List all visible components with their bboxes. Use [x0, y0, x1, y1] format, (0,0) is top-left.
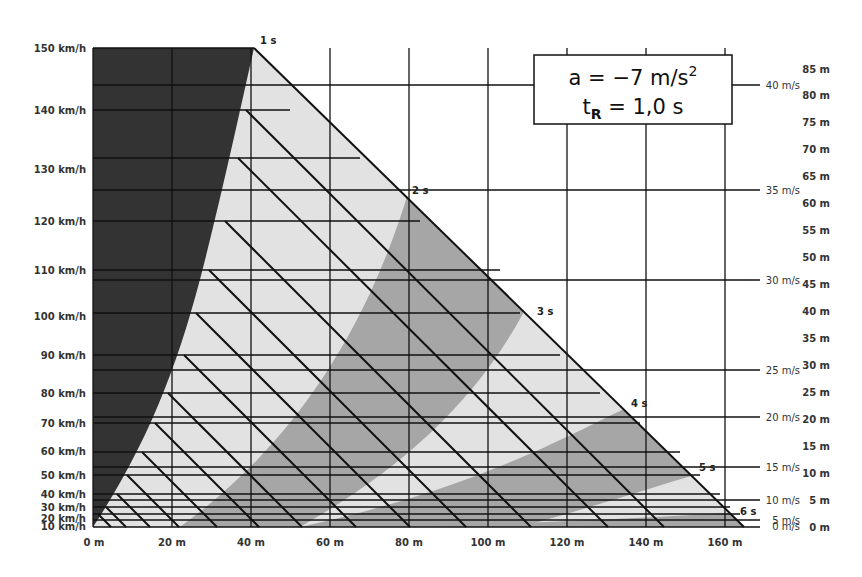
y-tick-150: 150 km/h	[34, 43, 86, 54]
y-tick-80: 80 km/h	[41, 388, 86, 399]
y-tick-50: 50 km/h	[41, 470, 86, 481]
x-tick-120: 120 m	[550, 537, 585, 548]
x-tick-80: 80 m	[395, 537, 423, 548]
dist-tick-50: 50 m	[802, 252, 830, 263]
dist-tick-55: 55 m	[802, 225, 830, 236]
speed-tick-30: 30 m/s	[766, 275, 800, 286]
x-tick-20: 20 m	[158, 537, 186, 548]
speed-tick-10: 10 m/s	[766, 495, 800, 506]
right-speed-labels: 40 m/s 35 m/s 30 m/s 25 m/s 20 m/s 15 m/…	[766, 80, 800, 532]
dist-tick-70: 70 m	[802, 144, 830, 155]
dist-tick-45: 45 m	[802, 279, 830, 290]
y-tick-120: 120 km/h	[34, 216, 86, 227]
dist-tick-35: 35 m	[802, 333, 830, 344]
time-label-5s: 5 s	[699, 462, 715, 473]
y-tick-110: 110 km/h	[34, 265, 86, 276]
deceleration-label: a = −7 m/s2	[569, 63, 698, 90]
y-tick-70: 70 km/h	[41, 418, 86, 429]
time-label-4s: 4 s	[631, 398, 647, 409]
y-tick-40: 40 km/h	[41, 489, 86, 500]
dist-tick-60: 60 m	[802, 198, 830, 209]
x-tick-160: 160 m	[708, 537, 743, 548]
x-tick-0: 0 m	[84, 537, 105, 548]
x-tick-60: 60 m	[316, 537, 344, 548]
time-label-6s: 6 s	[740, 506, 756, 517]
speed-tick-20: 20 m/s	[766, 412, 800, 423]
speed-tick-15: 15 m/s	[766, 462, 800, 473]
x-tick-100: 100 m	[471, 537, 506, 548]
dist-tick-25: 25 m	[802, 387, 830, 398]
y-tick-130: 130 km/h	[34, 164, 86, 175]
speed-tick-40: 40 m/s	[766, 80, 800, 91]
time-label-1s: 1 s	[260, 35, 276, 46]
dist-tick-75: 75 m	[802, 117, 830, 128]
dist-tick-80: 80 m	[802, 90, 830, 101]
y-tick-90: 90 km/h	[41, 350, 86, 361]
dist-tick-85: 85 m	[802, 64, 830, 75]
parameter-box: a = −7 m/s2 tR = 1,0 s	[534, 55, 732, 124]
y-tick-30: 30 km/h	[41, 502, 86, 513]
dist-tick-5: 5 m	[809, 495, 830, 506]
speed-tick-35: 35 m/s	[766, 185, 800, 196]
braking-distance-chart: 1 s 2 s 3 s 4 s 5 s 6 s a = −7 m/s2 tR =…	[0, 0, 862, 577]
right-distance-labels: 85 m 80 m 75 m 70 m 65 m 60 m 55 m 50 m …	[802, 64, 830, 533]
y-tick-10: 10 km/h	[41, 521, 86, 532]
dist-tick-10: 10 m	[802, 468, 830, 479]
x-axis-labels: 0 m 20 m 40 m 60 m 80 m 100 m 120 m 140 …	[84, 537, 743, 548]
left-axis-labels: 150 km/h 140 km/h 130 km/h 120 km/h 110 …	[34, 43, 86, 532]
dist-tick-0: 0 m	[809, 522, 830, 533]
time-label-3s: 3 s	[537, 306, 553, 317]
time-label-2s: 2 s	[412, 185, 428, 196]
speed-tick-0: 0 m/s	[772, 521, 800, 532]
y-tick-140: 140 km/h	[34, 105, 86, 116]
x-tick-40: 40 m	[237, 537, 265, 548]
dist-tick-40: 40 m	[802, 306, 830, 317]
speed-tick-25: 25 m/s	[766, 365, 800, 376]
dist-tick-30: 30 m	[802, 360, 830, 371]
dist-tick-15: 15 m	[802, 441, 830, 452]
y-tick-60: 60 km/h	[41, 446, 86, 457]
dist-tick-20: 20 m	[802, 414, 830, 425]
dist-tick-65: 65 m	[802, 171, 830, 182]
x-tick-140: 140 m	[629, 537, 664, 548]
y-tick-100: 100 km/h	[34, 311, 86, 322]
